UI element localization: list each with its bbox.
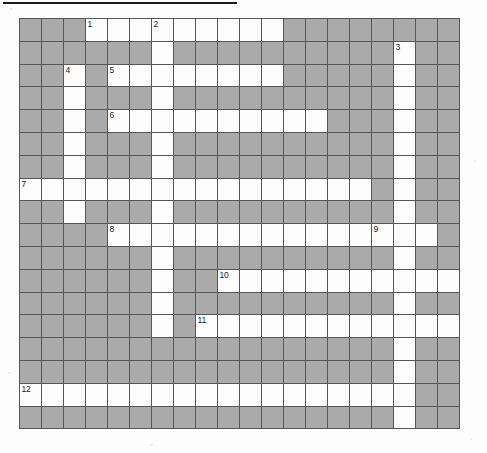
crossword-cell-open[interactable] — [240, 315, 262, 338]
crossword-cell-open[interactable] — [262, 19, 284, 42]
crossword-cell-open[interactable] — [284, 315, 306, 338]
crossword-cell-open[interactable] — [64, 178, 86, 201]
crossword-cell-open[interactable]: 6 — [108, 110, 130, 133]
crossword-cell-open[interactable] — [64, 155, 86, 178]
crossword-cell-open[interactable] — [394, 224, 416, 247]
crossword-cell-open[interactable] — [152, 64, 174, 87]
crossword-cell-open[interactable] — [262, 110, 284, 133]
crossword-cell-open[interactable]: 9 — [372, 224, 394, 247]
crossword-cell-open[interactable] — [416, 224, 438, 247]
crossword-cell-open[interactable] — [218, 383, 240, 406]
crossword-cell-open[interactable] — [284, 224, 306, 247]
crossword-cell-open[interactable] — [350, 315, 372, 338]
crossword-cell-open[interactable] — [130, 383, 152, 406]
crossword-cell-open[interactable] — [284, 178, 306, 201]
crossword-cell-open[interactable] — [240, 224, 262, 247]
crossword-cell-open[interactable] — [86, 383, 108, 406]
crossword-cell-open[interactable] — [218, 64, 240, 87]
crossword-cell-open[interactable] — [152, 41, 174, 64]
crossword-cell-open[interactable] — [130, 19, 152, 42]
crossword-cell-open[interactable] — [152, 383, 174, 406]
crossword-cell-open[interactable] — [196, 110, 218, 133]
crossword-cell-open[interactable] — [152, 269, 174, 292]
crossword-cell-open[interactable] — [394, 155, 416, 178]
crossword-cell-open[interactable] — [262, 178, 284, 201]
crossword-cell-open[interactable] — [240, 110, 262, 133]
crossword-cell-open[interactable] — [284, 383, 306, 406]
crossword-cell-open[interactable]: 3 — [394, 41, 416, 64]
crossword-cell-open[interactable] — [394, 64, 416, 87]
crossword-cell-open[interactable] — [174, 64, 196, 87]
crossword-cell-open[interactable] — [350, 383, 372, 406]
crossword-cell-open[interactable] — [394, 178, 416, 201]
crossword-cell-open[interactable] — [196, 383, 218, 406]
crossword-cell-open[interactable] — [174, 19, 196, 42]
crossword-cell-open[interactable] — [196, 178, 218, 201]
crossword-cell-open[interactable] — [394, 315, 416, 338]
crossword-cell-open[interactable] — [152, 246, 174, 269]
crossword-cell-open[interactable] — [152, 224, 174, 247]
crossword-cell-open[interactable] — [306, 178, 328, 201]
crossword-cell-open[interactable] — [218, 315, 240, 338]
crossword-cell-open[interactable]: 7 — [20, 178, 42, 201]
crossword-cell-open[interactable] — [306, 269, 328, 292]
crossword-cell-open[interactable] — [64, 383, 86, 406]
crossword-cell-open[interactable] — [394, 338, 416, 361]
crossword-cell-open[interactable] — [394, 292, 416, 315]
crossword-cell-open[interactable] — [350, 178, 372, 201]
crossword-cell-open[interactable] — [64, 87, 86, 110]
crossword-cell-open[interactable] — [174, 178, 196, 201]
crossword-cell-open[interactable] — [328, 383, 350, 406]
crossword-cell-open[interactable] — [152, 178, 174, 201]
crossword-cell-open[interactable] — [372, 383, 394, 406]
crossword-cell-open[interactable]: 5 — [108, 64, 130, 87]
crossword-cell-open[interactable]: 10 — [218, 269, 240, 292]
crossword-cell-open[interactable] — [438, 269, 460, 292]
crossword-cell-open[interactable]: 4 — [64, 64, 86, 87]
crossword-cell-open[interactable] — [394, 269, 416, 292]
crossword-cell-open[interactable] — [394, 87, 416, 110]
crossword-cell-open[interactable] — [394, 360, 416, 383]
crossword-cell-open[interactable] — [64, 201, 86, 224]
crossword-cell-open[interactable] — [372, 269, 394, 292]
crossword-cell-open[interactable] — [152, 155, 174, 178]
crossword-cell-open[interactable] — [86, 178, 108, 201]
crossword-cell-open[interactable] — [196, 19, 218, 42]
crossword-cell-open[interactable] — [262, 64, 284, 87]
crossword-cell-open[interactable] — [174, 383, 196, 406]
crossword-cell-open[interactable] — [394, 383, 416, 406]
crossword-cell-open[interactable] — [394, 201, 416, 224]
crossword-cell-open[interactable] — [42, 383, 64, 406]
crossword-cell-open[interactable] — [262, 315, 284, 338]
crossword-cell-open[interactable] — [240, 383, 262, 406]
crossword-cell-open[interactable] — [130, 178, 152, 201]
crossword-cell-open[interactable] — [306, 224, 328, 247]
crossword-grid[interactable]: 123456789101112 — [19, 18, 460, 429]
crossword-cell-open[interactable] — [262, 269, 284, 292]
crossword-cell-open[interactable] — [218, 19, 240, 42]
crossword-cell-open[interactable] — [108, 178, 130, 201]
crossword-cell-open[interactable] — [152, 292, 174, 315]
crossword-cell-open[interactable] — [174, 224, 196, 247]
crossword-cell-open[interactable] — [306, 110, 328, 133]
crossword-cell-open[interactable] — [152, 87, 174, 110]
crossword-cell-open[interactable] — [240, 19, 262, 42]
crossword-cell-open[interactable] — [350, 269, 372, 292]
crossword-cell-open[interactable] — [64, 110, 86, 133]
crossword-cell-open[interactable] — [306, 383, 328, 406]
crossword-cell-open[interactable] — [350, 224, 372, 247]
crossword-cell-open[interactable]: 1 — [86, 19, 108, 42]
crossword-cell-open[interactable] — [394, 406, 416, 429]
crossword-cell-open[interactable] — [240, 178, 262, 201]
crossword-cell-open[interactable] — [438, 315, 460, 338]
crossword-cell-open[interactable] — [130, 224, 152, 247]
crossword-cell-open[interactable] — [218, 178, 240, 201]
crossword-cell-open[interactable] — [152, 110, 174, 133]
crossword-cell-open[interactable] — [328, 269, 350, 292]
crossword-cell-open[interactable] — [394, 110, 416, 133]
crossword-cell-open[interactable] — [130, 64, 152, 87]
crossword-cell-open[interactable] — [262, 224, 284, 247]
crossword-cell-open[interactable] — [196, 224, 218, 247]
crossword-cell-open[interactable] — [152, 315, 174, 338]
crossword-cell-open[interactable] — [152, 132, 174, 155]
